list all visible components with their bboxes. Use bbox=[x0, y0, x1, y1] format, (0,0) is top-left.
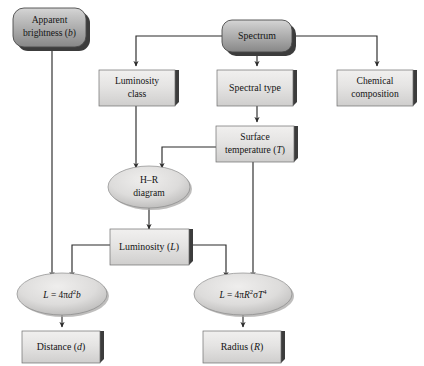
lum-post: ) bbox=[176, 241, 179, 253]
spectrum-label: Spectrum bbox=[238, 30, 276, 41]
surface-temperature-label-line1: Surface bbox=[240, 131, 269, 142]
formula-distance-text: L = 4πd2b bbox=[42, 288, 81, 299]
luminosity-class-label-line1: Luminosity bbox=[115, 75, 159, 86]
luminosity-class-label-line2: class bbox=[128, 88, 147, 99]
node-hr-diagram[interactable]: H–R diagram bbox=[108, 166, 192, 210]
fd-eq: = 4π bbox=[49, 290, 69, 300]
chemical-composition-label-line1: Chemical bbox=[357, 75, 394, 86]
st-post: ) bbox=[282, 144, 285, 156]
edge-surface-temperature-to-hr-diagram bbox=[162, 147, 216, 168]
ab-pre: brightness ( bbox=[23, 27, 68, 39]
node-chemical-composition[interactable]: Chemical composition bbox=[337, 70, 417, 106]
node-radius[interactable]: Radius (R) bbox=[203, 331, 285, 363]
dist-post: ) bbox=[82, 341, 85, 353]
edge-luminosity-to-formula-radius bbox=[189, 245, 226, 277]
surface-temperature-label-line2: temperature (T) bbox=[225, 144, 285, 156]
formula-radius-text: L = 4πR2σT4 bbox=[218, 288, 267, 299]
flowchart-canvas: Apparent brightness (b) Spectrum Luminos… bbox=[0, 0, 424, 366]
node-spectral-type[interactable]: Spectral type bbox=[217, 70, 297, 106]
rad-var: R bbox=[253, 341, 260, 352]
edge-spectrum-to-chemical-composition bbox=[292, 36, 377, 66]
chemical-composition-label-line2: composition bbox=[351, 88, 399, 99]
distance-label: Distance (d) bbox=[37, 341, 86, 353]
rad-post: ) bbox=[260, 341, 263, 353]
node-formula-distance[interactable]: L = 4πd2b bbox=[17, 273, 109, 317]
lum-pre: Luminosity ( bbox=[119, 241, 170, 253]
dist-pre: Distance ( bbox=[37, 341, 77, 353]
node-luminosity[interactable]: Luminosity (L) bbox=[110, 229, 193, 265]
fd-var2: b bbox=[76, 290, 81, 300]
spectral-type-label: Spectral type bbox=[229, 82, 281, 93]
edge-luminosity-to-formula-distance bbox=[72, 245, 110, 277]
node-luminosity-class[interactable]: Luminosity class bbox=[99, 70, 179, 106]
rad-pre: Radius ( bbox=[221, 341, 254, 353]
node-formula-radius[interactable]: L = 4πR2σT4 bbox=[194, 273, 294, 317]
node-distance[interactable]: Distance (d) bbox=[22, 331, 104, 363]
flowchart-diagram: Apparent brightness (b) Spectrum Luminos… bbox=[0, 0, 424, 366]
hr-diagram-label-line2: diagram bbox=[133, 187, 165, 198]
node-apparent-brightness[interactable]: Apparent brightness (b) bbox=[13, 8, 90, 51]
node-spectrum[interactable]: Spectrum bbox=[222, 20, 296, 56]
apparent-brightness-label-line2: brightness (b) bbox=[23, 27, 76, 39]
st-pre: temperature ( bbox=[225, 144, 276, 156]
hr-diagram-label-line1: H–R bbox=[140, 174, 159, 185]
radius-label: Radius (R) bbox=[221, 341, 264, 353]
fr-eq: = 4π bbox=[225, 290, 245, 300]
edge-spectrum-to-luminosity-class bbox=[136, 36, 222, 66]
ab-post: ) bbox=[73, 27, 76, 39]
luminosity-label: Luminosity (L) bbox=[119, 241, 179, 253]
node-surface-temperature[interactable]: Surface temperature (T) bbox=[216, 126, 298, 162]
apparent-brightness-label-line1: Apparent bbox=[32, 14, 68, 25]
